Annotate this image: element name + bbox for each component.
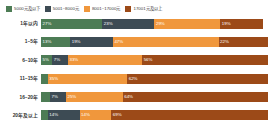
bar-segment[interactable]: 7% xyxy=(50,92,66,102)
bar-segment[interactable]: 47% xyxy=(113,37,219,47)
segment-value-label: 27% xyxy=(43,19,52,29)
bar-segment[interactable]: 29% xyxy=(154,19,220,29)
segment-value-label: 5% xyxy=(43,55,49,65)
legend-label-0: 5000元及以下 xyxy=(14,6,40,12)
category-label: 11~15年 xyxy=(3,73,41,84)
legend-swatch-icon-1 xyxy=(45,6,51,12)
legend-item-0[interactable]: 5000元及以下 xyxy=(6,6,40,12)
legend-swatch-icon-0 xyxy=(6,6,12,12)
segment-value-label: 33% xyxy=(69,55,78,65)
segment-value-label: 29% xyxy=(156,19,165,29)
chart-row: 1~5年13%19%47%22% xyxy=(3,36,268,47)
legend-label-1: 5001~8000元 xyxy=(53,6,79,12)
bar-segment[interactable]: 22% xyxy=(219,37,268,47)
chart-row: 20年及以上3%14%14%69% xyxy=(3,110,268,121)
legend-swatch-icon-2 xyxy=(84,6,90,12)
chart-row: 11~15年3%35%62% xyxy=(3,73,268,84)
bar-segment[interactable]: 3% xyxy=(41,74,48,84)
category-label: 20年及以上 xyxy=(3,110,41,121)
segment-value-label: 22% xyxy=(220,37,229,47)
bar-segment[interactable]: 5% xyxy=(41,55,52,65)
segment-value-label: 14% xyxy=(49,110,58,120)
chart-row: 6~10年5%7%33%56% xyxy=(3,55,268,66)
bar-segment[interactable]: 14% xyxy=(48,110,80,120)
bar-segment[interactable]: 19% xyxy=(70,37,113,47)
stacked-bar: 13%19%47%22% xyxy=(41,37,268,47)
bar-segment[interactable]: 35% xyxy=(48,74,127,84)
legend-swatch-icon-3 xyxy=(125,6,131,12)
bar-segment[interactable]: 25% xyxy=(66,92,123,102)
segment-value-label: 14% xyxy=(81,110,90,120)
bar-segment[interactable]: 7% xyxy=(52,55,68,65)
segment-value-label: 25% xyxy=(67,92,76,102)
segment-value-label: 13% xyxy=(43,37,52,47)
segment-value-label: 47% xyxy=(114,37,123,47)
bar-segment[interactable]: 56% xyxy=(142,55,268,65)
category-label: 6~10年 xyxy=(3,55,41,66)
category-label: 1年以内 xyxy=(3,18,41,29)
stacked-bar: 3%14%14%69% xyxy=(41,110,268,120)
stacked-bar-chart: 5000元及以下 5001~8000元 8001~17000元 17001元及以… xyxy=(0,0,272,124)
category-label: 1~5年 xyxy=(3,36,41,47)
bar-segment[interactable]: 14% xyxy=(80,110,112,120)
bar-segment[interactable]: 69% xyxy=(111,110,268,120)
chart-row: 1年以内27%23%29%19% xyxy=(3,18,268,29)
segment-value-label: 69% xyxy=(113,110,122,120)
stacked-bar: 3%35%62% xyxy=(41,74,268,84)
chart-legend: 5000元及以下 5001~8000元 8001~17000元 17001元及以… xyxy=(6,4,268,14)
segment-value-label: 7% xyxy=(54,55,60,65)
stacked-bar: 5%7%33%56% xyxy=(41,55,268,65)
segment-value-label: 56% xyxy=(144,55,153,65)
bar-segment[interactable]: 19% xyxy=(220,19,263,29)
bar-segment[interactable]: 27% xyxy=(41,19,102,29)
bar-segment[interactable]: 33% xyxy=(68,55,142,65)
segment-value-label: 7% xyxy=(52,92,58,102)
segment-value-label: 35% xyxy=(49,74,58,84)
segment-value-label: 23% xyxy=(104,19,113,29)
legend-label-2: 8001~17000元 xyxy=(92,6,121,12)
chart-plot-area: 1年以内27%23%29%19%1~5年13%19%47%22%6~10年5%7… xyxy=(3,17,268,121)
bar-segment[interactable]: 64% xyxy=(123,92,268,102)
legend-item-1[interactable]: 5001~8000元 xyxy=(45,6,79,12)
stacked-bar: 27%23%29%19% xyxy=(41,19,268,29)
legend-item-3[interactable]: 17001元及以上 xyxy=(125,6,161,12)
bar-segment[interactable]: 4% xyxy=(41,92,50,102)
segment-value-label: 62% xyxy=(129,74,138,84)
bar-segment[interactable]: 62% xyxy=(127,74,268,84)
segment-value-label: 19% xyxy=(222,19,231,29)
chart-row: 16~20年4%7%25%64% xyxy=(3,92,268,103)
legend-label-3: 17001元及以上 xyxy=(133,6,161,12)
stacked-bar: 4%7%25%64% xyxy=(41,92,268,102)
bar-segment[interactable]: 23% xyxy=(102,19,154,29)
category-label: 16~20年 xyxy=(3,92,41,103)
bar-segment[interactable]: 13% xyxy=(41,37,70,47)
legend-item-2[interactable]: 8001~17000元 xyxy=(84,6,121,12)
segment-value-label: 19% xyxy=(72,37,81,47)
bar-segment[interactable]: 3% xyxy=(41,110,48,120)
segment-value-label: 64% xyxy=(124,92,133,102)
